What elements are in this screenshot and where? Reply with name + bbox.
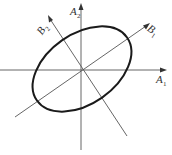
axis-b2 [50, 19, 127, 136]
svg-text:1: 1 [163, 80, 167, 88]
label-a2: A 2 [69, 5, 81, 20]
label-a1: A 1 [155, 73, 167, 88]
arrow-a2-icon [79, 3, 84, 10]
ellipse-axes-diagram: A 2 B 2 B 1 A 1 [0, 0, 172, 155]
label-b2: B 2 [34, 24, 53, 37]
svg-text:A: A [155, 73, 163, 85]
arrow-a1-icon [160, 68, 167, 73]
arrow-b2-icon [48, 15, 53, 23]
svg-text:2: 2 [77, 12, 81, 20]
svg-text:A: A [69, 5, 77, 17]
